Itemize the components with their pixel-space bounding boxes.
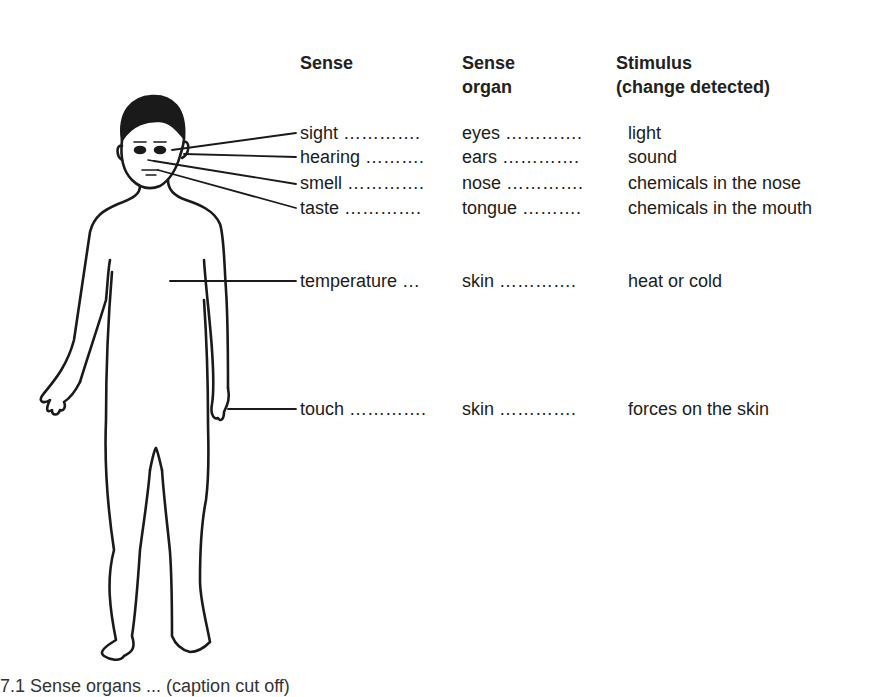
organ-cell: ears …………. — [462, 146, 579, 168]
header-sense: Sense — [300, 52, 353, 74]
stimulus-cell: light — [628, 122, 661, 144]
stimulus-cell: chemicals in the nose — [628, 172, 801, 194]
header-stimulus-line2: (change detected) — [616, 76, 770, 98]
organ-cell: skin …………. — [462, 398, 576, 420]
stimulus-cell: sound — [628, 146, 677, 168]
header-organ-line1: Sense — [462, 52, 515, 74]
header-stimulus-line1: Stimulus — [616, 52, 692, 74]
organ-cell: tongue ………. — [462, 197, 581, 219]
sense-cell: temperature … — [300, 270, 420, 292]
stimulus-cell: heat or cold — [628, 270, 722, 292]
sense-cell: sight …………. — [300, 122, 420, 144]
header-organ-line2: organ — [462, 76, 512, 98]
sense-cell: touch …………. — [300, 398, 426, 420]
sense-cell: taste …………. — [300, 197, 421, 219]
organ-cell: eyes …………. — [462, 122, 582, 144]
sense-cell: smell …………. — [300, 172, 424, 194]
organ-cell: skin …………. — [462, 270, 576, 292]
stimulus-cell: forces on the skin — [628, 398, 769, 420]
sense-cell: hearing ………. — [300, 146, 424, 168]
stimulus-cell: chemicals in the mouth — [628, 197, 812, 219]
organ-cell: nose …………. — [462, 172, 583, 194]
figure-caption: 7.1 Sense organs ... (caption cut off) — [0, 676, 290, 697]
